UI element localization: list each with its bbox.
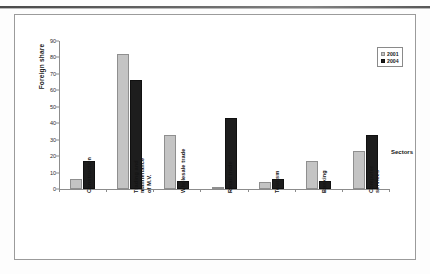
legend-label-2001: 2001 xyxy=(387,51,399,57)
x-axis-category-label: Banking xyxy=(321,170,327,193)
y-axis-tick-mark xyxy=(56,139,59,140)
x-axis-tick-mark xyxy=(295,189,296,192)
x-axis-tick-mark xyxy=(200,189,201,192)
x-axis-tick-mark xyxy=(153,189,154,192)
y-axis-tick-mark xyxy=(56,41,59,42)
y-axis-tick-mark xyxy=(56,172,59,173)
x-axis-title: Sectors xyxy=(391,149,413,155)
y-axis-tick-mark xyxy=(56,106,59,107)
x-axis-tick-mark xyxy=(59,189,60,192)
legend-item-2004: 2004 xyxy=(381,57,399,64)
bar-group xyxy=(259,41,284,189)
legend-swatch-2001 xyxy=(381,52,385,56)
bar-2001-retail-trade xyxy=(212,187,224,189)
x-axis-category-label: Trading and maintenance of M.V. xyxy=(133,158,152,193)
bar-2001-construction xyxy=(70,179,82,189)
legend-label-2004: 2004 xyxy=(387,58,399,64)
x-axis-category-label: Wholesale trade xyxy=(180,149,186,193)
chart-legend: 2001 2004 xyxy=(377,47,403,67)
bar-2001-wholesale-trade xyxy=(164,135,176,189)
x-axis-category-label: Computer services xyxy=(368,144,381,193)
bar-2001-computer-services xyxy=(353,151,365,189)
x-axis-line xyxy=(59,189,390,190)
bar-2001-tourism xyxy=(259,182,271,189)
y-axis-tick-mark xyxy=(56,57,59,58)
plot-area: 0102030405060708090 xyxy=(59,41,389,189)
x-axis-category-label: Retail trade xyxy=(227,161,233,193)
y-axis-tick-mark xyxy=(56,156,59,157)
legend-item-2001: 2001 xyxy=(381,50,399,57)
y-axis-tick-mark xyxy=(56,123,59,124)
legend-swatch-2004 xyxy=(381,59,385,63)
page-top-rule-shadow xyxy=(0,8,430,9)
y-axis-tick-mark xyxy=(56,90,59,91)
x-axis-category-label: Tourism xyxy=(274,171,280,193)
x-axis-tick-mark xyxy=(389,189,390,192)
bar-2001-trading-and-maintenance-of-m-v xyxy=(117,54,129,189)
bar-chart: Foreign share 0102030405060708090 Sector… xyxy=(15,15,417,261)
x-axis-tick-mark xyxy=(106,189,107,192)
y-axis-title: Foreign share xyxy=(38,27,45,107)
figure-border: Foreign share 0102030405060708090 Sector… xyxy=(14,14,416,260)
x-axis-category-label: Construction xyxy=(86,157,92,193)
y-axis-tick-mark xyxy=(56,73,59,74)
x-axis-tick-mark xyxy=(248,189,249,192)
bar-group xyxy=(306,41,331,189)
scanned-page: Foreign share 0102030405060708090 Sector… xyxy=(0,0,430,274)
x-axis-tick-mark xyxy=(342,189,343,192)
bar-2001-banking xyxy=(306,161,318,189)
